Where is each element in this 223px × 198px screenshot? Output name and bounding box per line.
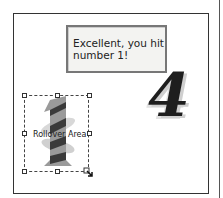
resize-handle-bottom-left[interactable] [22,169,27,174]
resize-handle-bottom[interactable] [55,169,60,174]
panel-divider [219,0,220,198]
number-four-graphic[interactable]: 4 [148,65,190,125]
feedback-message-text: Excellent, you hit number 1! [73,37,164,61]
resize-cursor-icon[interactable] [83,167,93,177]
resize-handle-right[interactable] [87,131,92,136]
resize-handle-top-left[interactable] [22,93,27,98]
resize-handle-top[interactable] [55,93,60,98]
resize-handle-top-right[interactable] [87,93,92,98]
rollover-area-selection[interactable]: Rollover Area [24,95,89,172]
resize-handle-left[interactable] [22,131,27,136]
rollover-area-label: Rollover Area [33,130,86,139]
